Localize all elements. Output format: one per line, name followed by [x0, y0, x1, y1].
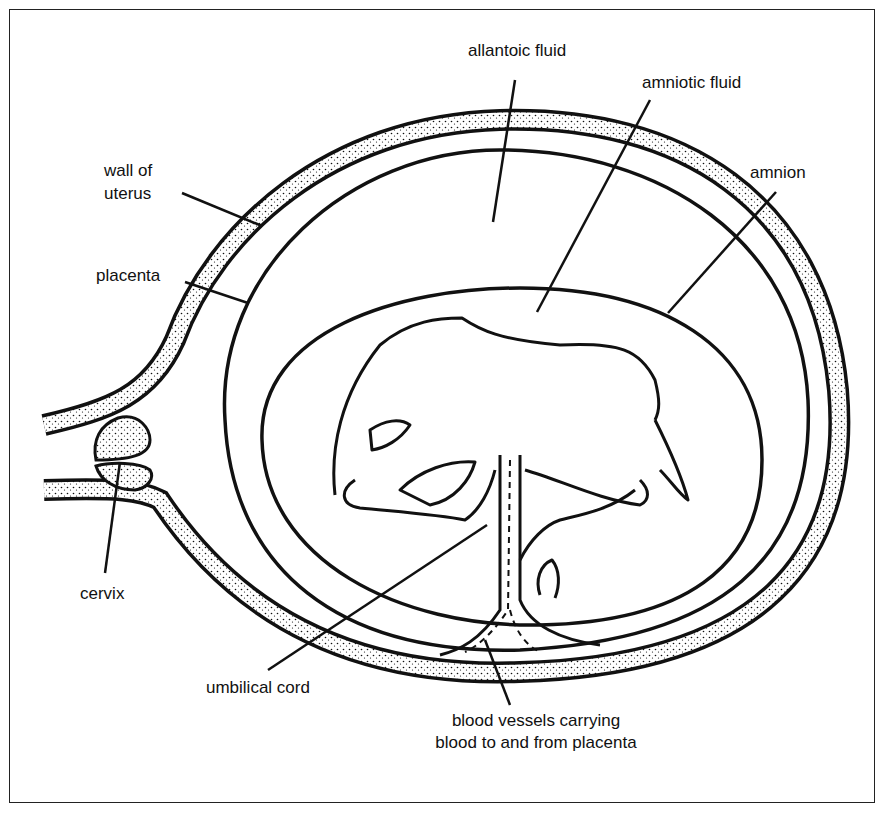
- label-umbilical-cord: umbilical cord: [206, 677, 310, 698]
- label-allantoic-fluid: allantoic fluid: [468, 40, 566, 61]
- label-amniotic-fluid: amniotic fluid: [642, 72, 741, 93]
- label-wall-of-uterus-line2: uterus: [104, 183, 151, 204]
- label-cervix: cervix: [80, 583, 124, 604]
- label-blood-vessels-line1: blood vessels carrying: [416, 710, 656, 731]
- placenta-membrane: [224, 150, 808, 650]
- leader-amnion: [668, 192, 776, 313]
- fetus: [334, 318, 688, 598]
- uterus-wall: [44, 120, 839, 673]
- uterus-diagram: [0, 0, 884, 824]
- label-amnion: amnion: [750, 162, 806, 183]
- label-wall-of-uterus-line1: wall of: [104, 160, 152, 181]
- cervix-shape: [95, 417, 152, 490]
- label-placenta: placenta: [96, 265, 160, 286]
- label-blood-vessels-line2: blood to and from placenta: [406, 732, 666, 753]
